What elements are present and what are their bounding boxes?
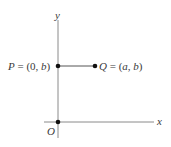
point-q-eq: = ( xyxy=(107,60,122,72)
y-axis-label: y xyxy=(55,10,60,21)
point-q-label: Q = (a, b) xyxy=(99,61,143,72)
point-p-close: ) xyxy=(47,60,51,72)
point-p-label: P = (0, b) xyxy=(8,61,50,72)
origin-label: O xyxy=(47,126,55,137)
point-q-name: Q xyxy=(99,60,107,72)
point-q xyxy=(93,64,98,69)
point-origin xyxy=(56,120,61,125)
x-axis-label: x xyxy=(157,116,162,127)
point-p xyxy=(56,64,61,69)
coordinate-diagram xyxy=(0,0,171,147)
point-p-name: P xyxy=(8,60,15,72)
point-p-eq: = (0, xyxy=(15,60,41,72)
point-q-close: ) xyxy=(139,60,143,72)
